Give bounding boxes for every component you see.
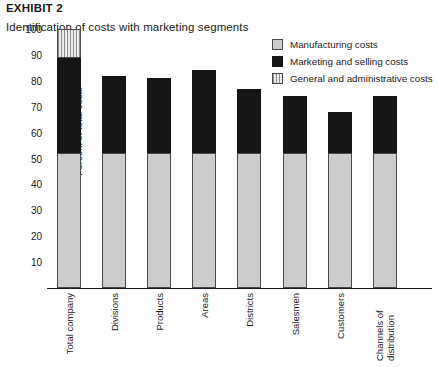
x-axis-tick-label: Products <box>154 293 165 331</box>
stacked-bar <box>237 89 261 288</box>
x-axis-tick-label: Customers <box>334 293 345 339</box>
legend-label: General and administrative costs <box>290 74 433 84</box>
y-axis-tick-label: 80 <box>20 77 42 87</box>
bar-segment <box>102 76 126 154</box>
stacked-bar <box>57 29 81 288</box>
y-axis-tick-label: 30 <box>20 206 42 216</box>
legend-item: General and administrative costs <box>272 71 433 86</box>
legend-swatch-icon <box>272 56 283 67</box>
stacked-bar <box>373 96 397 288</box>
legend-swatch-icon <box>272 39 283 50</box>
x-axis-tick: Products <box>147 293 171 363</box>
stacked-bar <box>147 78 171 288</box>
x-axis-line <box>47 288 432 289</box>
x-axis-tick-label: Channels of distribution <box>374 293 396 361</box>
x-axis-tick: Channels of distribution <box>373 293 397 363</box>
y-axis-tick-label: 60 <box>20 129 42 139</box>
y-axis-tick-label: 40 <box>20 180 42 190</box>
y-axis-tick-label: 70 <box>20 103 42 113</box>
x-axis-tick: Divisions <box>102 293 126 363</box>
bar-segment <box>283 153 307 288</box>
bar-segment <box>57 58 81 154</box>
legend-item: Manufacturing costs <box>272 37 433 52</box>
exhibit-label: EXHIBIT 2 <box>6 2 63 14</box>
legend-item: Marketing and selling costs <box>272 54 433 69</box>
y-axis-tick-label: 10 <box>20 258 42 268</box>
bar-segment <box>192 153 216 288</box>
x-axis-tick-label: Areas <box>199 293 210 318</box>
x-axis-tick: Total company <box>57 293 81 363</box>
bar-segment <box>373 96 397 153</box>
bar-segment <box>192 70 216 153</box>
bar-segment <box>328 153 352 288</box>
stacked-bar <box>328 112 352 288</box>
x-axis-tick-label: Divisions <box>109 293 120 331</box>
bar-segment <box>57 153 81 288</box>
bar-segment <box>147 153 171 288</box>
legend-label: Manufacturing costs <box>290 40 378 50</box>
x-axis-tick-label: Total company <box>64 293 75 354</box>
y-axis-tick-label: 50 <box>20 155 42 165</box>
x-axis-tick-label: Districts <box>244 293 255 327</box>
stacked-bar <box>192 70 216 288</box>
bar-segment <box>373 153 397 288</box>
bar-segment <box>57 29 81 57</box>
y-axis-tick-label: 90 <box>20 51 42 61</box>
bar-segment <box>283 96 307 153</box>
bar-segment <box>328 112 352 153</box>
x-axis-tick: Customers <box>328 293 352 363</box>
x-axis-tick-label: Salesmen <box>289 293 300 335</box>
x-axis-tick: Districts <box>237 293 261 363</box>
x-axis-tick: Areas <box>192 293 216 363</box>
bar-segment <box>147 78 171 153</box>
legend-swatch-icon <box>272 73 283 84</box>
y-axis-tick-label: 20 <box>20 232 42 242</box>
legend-label: Marketing and selling costs <box>290 57 408 67</box>
stacked-bar <box>102 76 126 288</box>
bar-segment <box>237 153 261 288</box>
chart-legend: Manufacturing costsMarketing and selling… <box>272 37 433 88</box>
x-axis-tick: Salesmen <box>283 293 307 363</box>
bar-segment <box>102 153 126 288</box>
y-axis-tick-label: 100 <box>20 25 42 35</box>
bar-segment <box>237 89 261 154</box>
stacked-bar <box>283 96 307 288</box>
